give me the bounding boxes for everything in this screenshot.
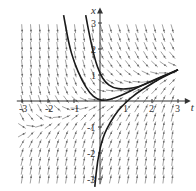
slope-arrow-icon: [39, 51, 40, 60]
slope-arrow-icon: [54, 123, 60, 130]
slope-arrow-icon: [47, 86, 50, 95]
slope-arrow-icon: [144, 33, 147, 42]
slope-arrow-icon: [135, 104, 140, 112]
slope-arrow-icon: [135, 42, 138, 50]
slope-arrow-icon: [106, 90, 115, 91]
slope-arrow-icon: [160, 79, 167, 84]
t-tick-label: -3: [19, 103, 27, 114]
slope-arrow-icon: [39, 77, 41, 86]
slope-arrow-icon: [91, 139, 94, 148]
slope-arrow-icon: [39, 175, 40, 184]
slope-arrow-icon: [39, 68, 40, 77]
slope-arrow-icon: [38, 95, 41, 104]
slope-arrow-icon: [142, 71, 150, 75]
slope-arrow-icon: [171, 122, 173, 131]
slope-arrow-icon: [48, 51, 49, 60]
slope-arrow-icon: [160, 61, 167, 66]
slope-arrow-icon: [66, 175, 67, 184]
slope-arrow-icon: [56, 86, 59, 94]
slope-arrow-icon: [163, 157, 164, 166]
slope-arrow-icon: [48, 77, 50, 86]
slope-arrow-icon: [143, 51, 148, 59]
slope-arrow-icon: [154, 130, 156, 139]
slope-arrow-icon: [135, 33, 138, 42]
slope-arrow-icon: [171, 24, 174, 33]
x-tick-label: 1: [91, 70, 96, 81]
slope-arrow-icon: [169, 79, 175, 85]
slope-arrow-icon: [109, 42, 112, 50]
slope-arrow-icon: [126, 113, 130, 121]
slope-arrow-icon: [74, 51, 76, 60]
slope-arrow-icon: [117, 122, 121, 130]
slope-arrow-icon: [55, 95, 59, 103]
slope-arrow-icon: [81, 114, 87, 120]
slope-arrow-icon: [30, 33, 31, 42]
slope-arrow-icon: [30, 60, 31, 69]
slope-arrow-icon: [168, 62, 176, 66]
slope-arrow-icon: [74, 42, 76, 51]
slope-arrow-icon: [109, 139, 112, 147]
slope-arrow-icon: [145, 166, 146, 175]
slope-arrow-icon: [74, 175, 75, 184]
slope-arrow-icon: [18, 133, 26, 137]
slope-arrow-icon: [56, 69, 58, 78]
slope-arrow-icon: [118, 175, 120, 184]
slope-arrow-icon: [172, 166, 173, 175]
slope-arrow-icon: [151, 61, 158, 67]
slope-arrow-icon: [170, 87, 174, 95]
slope-arrow-icon: [39, 60, 40, 69]
slope-arrow-icon: [48, 33, 49, 42]
slope-arrow-icon: [83, 24, 84, 33]
slope-arrow-icon: [83, 51, 85, 60]
slope-arrow-icon: [116, 70, 123, 76]
slope-arrow-icon: [82, 69, 85, 77]
slope-arrow-icon: [136, 148, 138, 157]
slope-arrow-icon: [127, 148, 129, 157]
slope-arrow-icon: [73, 122, 78, 130]
slope-arrow-icon: [21, 86, 23, 95]
slope-arrow-icon: [118, 139, 121, 148]
slope-arrow-icon: [145, 24, 147, 33]
slope-arrow-icon: [48, 68, 50, 77]
slope-arrow-icon: [136, 24, 138, 33]
slope-arrow-icon: [35, 125, 44, 128]
slope-arrow-icon: [72, 96, 79, 102]
slope-arrow-icon: [108, 60, 113, 67]
direction-field-figure: t x -3-2-1123-3-2-1123: [0, 0, 196, 191]
slope-arrow-icon: [22, 24, 23, 33]
slope-arrow-icon: [109, 166, 111, 175]
slope-arrow-icon: [144, 42, 148, 50]
slope-arrow-icon: [64, 131, 68, 139]
x-tick-label: -1: [87, 122, 95, 133]
t-tick-label: 3: [175, 103, 180, 114]
slope-arrow-icon: [171, 33, 174, 41]
slope-arrow-icon: [154, 157, 155, 166]
slope-arrow-icon: [127, 166, 129, 175]
slope-arrow-icon: [48, 24, 49, 33]
slope-arrow-icon: [18, 123, 25, 128]
slope-arrow-icon: [55, 131, 59, 139]
slope-arrow-icon: [170, 42, 174, 50]
slope-arrow-icon: [109, 24, 112, 33]
slope-arrow-icon: [89, 106, 97, 110]
slope-arrow-icon: [154, 139, 156, 148]
t-tick-label: 2: [149, 103, 154, 114]
slope-arrow-icon: [163, 175, 164, 184]
slope-arrow-icon: [162, 33, 165, 41]
slope-arrow-icon: [82, 122, 86, 130]
slope-arrow-icon: [57, 51, 58, 60]
slope-arrow-icon: [136, 166, 138, 175]
slope-arrow-icon: [117, 113, 122, 121]
slope-arrow-icon: [117, 60, 122, 67]
slope-arrow-icon: [22, 33, 23, 42]
slope-arrow-icon: [97, 89, 106, 91]
slope-arrow-icon: [48, 166, 50, 175]
slope-arrow-icon: [154, 148, 156, 157]
slope-arrow-icon: [30, 175, 31, 184]
slope-arrow-icon: [100, 24, 103, 33]
slope-arrow-icon: [152, 51, 157, 59]
slope-arrow-icon: [144, 104, 148, 112]
slope-arrow-icon: [153, 33, 156, 42]
slope-arrow-icon: [117, 51, 121, 59]
slope-arrow-icon: [29, 140, 33, 148]
